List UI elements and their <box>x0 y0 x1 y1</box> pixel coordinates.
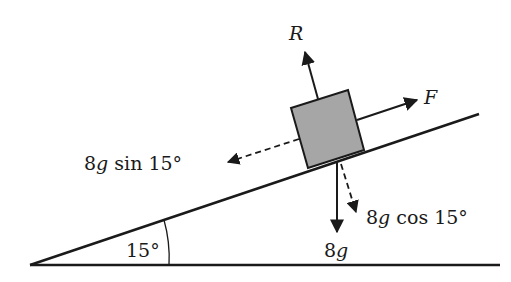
perpendicular-component-label: 8g cos 15° <box>366 206 468 228</box>
parallel-component-label: 8g sin 15° <box>84 152 182 174</box>
force-diagram: 15° R F 8g sin 15° 8g 8g cos 15° <box>0 0 511 282</box>
normal-force-label: R <box>288 22 303 44</box>
incline-line <box>30 114 479 265</box>
normal-force-arrow <box>305 52 318 99</box>
weight-label: 8g <box>324 239 348 261</box>
angle-arc <box>164 220 169 265</box>
perpendicular-component-arrow <box>341 164 356 212</box>
applied-force-label: F <box>423 86 438 108</box>
applied-force-arrow <box>357 100 417 120</box>
angle-label: 15° <box>126 239 160 261</box>
parallel-component-arrow <box>228 139 299 162</box>
